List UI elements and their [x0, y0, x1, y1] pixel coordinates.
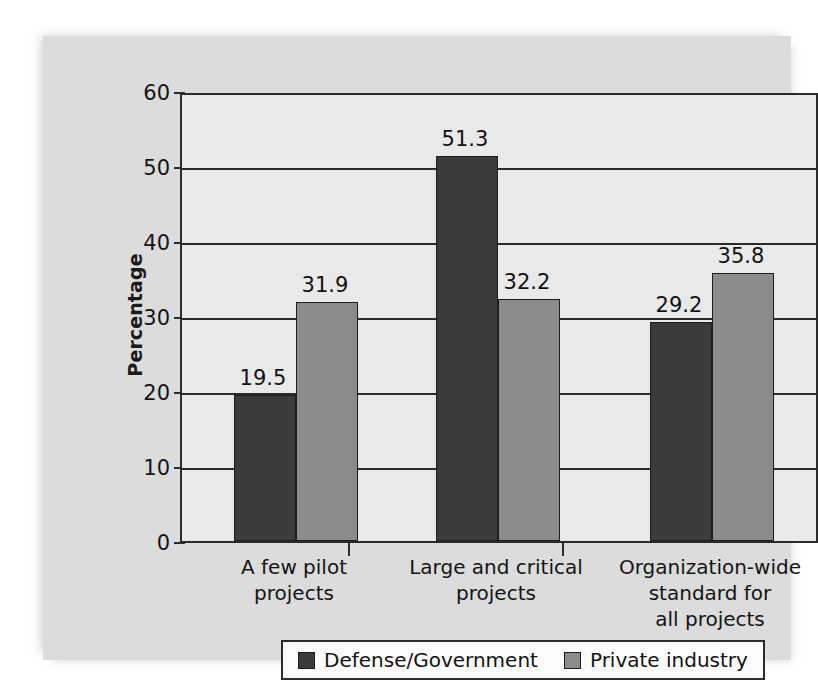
category-label-line: standard for: [619, 580, 801, 606]
bar-private-a-few-pilot-projects[interactable]: [296, 302, 358, 541]
y-tick-label-50: 50: [118, 156, 170, 180]
value-label-private-2: 32.2: [504, 270, 551, 294]
category-label-line: all projects: [619, 606, 801, 632]
plot-area: [180, 93, 818, 543]
legend-item-defense-government[interactable]: Defense/Government: [298, 648, 538, 672]
category-label-line: A few pilot: [241, 554, 347, 580]
value-label-defense-2: 51.3: [442, 127, 489, 151]
category-label-line: Organization-wide: [619, 554, 801, 580]
value-label-private-3: 35.8: [718, 244, 765, 268]
gridline-50: [182, 168, 816, 170]
legend-item-private-industry[interactable]: Private industry: [564, 648, 748, 672]
value-label-defense-3: 29.2: [656, 293, 703, 317]
value-label-defense-1: 19.5: [240, 366, 287, 390]
bar-defense-a-few-pilot-projects[interactable]: [234, 395, 296, 541]
bar-defense-organization-wide-standard[interactable]: [650, 322, 712, 541]
figure-panel: Percentage 60 50 40 30 20 10 0 19.5: [43, 36, 791, 660]
y-tick-label-60: 60: [118, 81, 170, 105]
legend-swatch-icon-defense: [298, 652, 315, 669]
legend-label-defense-government: Defense/Government: [324, 648, 538, 672]
category-label-a-few-pilot-projects: A few pilot projects: [241, 554, 347, 606]
chart-legend: Defense/Government Private industry: [281, 640, 765, 680]
value-label-private-1: 31.9: [302, 273, 349, 297]
y-tick-label-40: 40: [118, 231, 170, 255]
category-label-organization-wide-standard: Organization-wide standard for all proje…: [619, 554, 801, 632]
bar-private-organization-wide-standard[interactable]: [712, 273, 774, 541]
category-label-large-and-critical-projects: Large and critical projects: [409, 554, 583, 606]
y-tick-label-30: 30: [118, 306, 170, 330]
y-axis-tick-group: 60 50 40 30 20 10 0: [118, 36, 170, 660]
legend-swatch-icon-private: [564, 652, 581, 669]
category-label-line: projects: [409, 580, 583, 606]
y-tick-label-0: 0: [118, 531, 170, 555]
bar-private-large-and-critical-projects[interactable]: [498, 299, 560, 541]
y-tick-label-20: 20: [118, 381, 170, 405]
category-label-line: projects: [241, 580, 347, 606]
category-label-line: Large and critical: [409, 554, 583, 580]
x-tickmark-1: [348, 543, 350, 556]
legend-label-private-industry: Private industry: [590, 648, 748, 672]
y-tick-label-10: 10: [118, 456, 170, 480]
bar-defense-large-and-critical-projects[interactable]: [436, 156, 498, 541]
